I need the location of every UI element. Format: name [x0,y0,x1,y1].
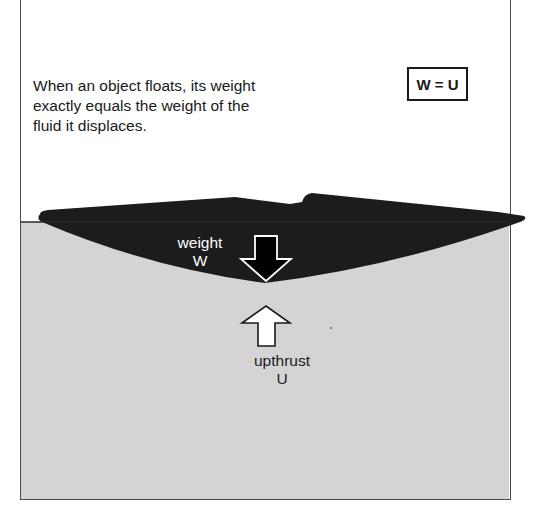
floating-object [38,193,525,283]
weight-label-text: weight [172,234,228,252]
equation-box: W = U [407,67,468,101]
arrow-up-icon [242,306,290,346]
caption-text: When an object floats, its weight exactl… [33,76,313,136]
upthrust-label-text: upthrust [240,352,324,370]
weight-symbol: W [172,252,228,270]
caption-line: fluid it displaces. [33,116,313,136]
caption-line: exactly equals the weight of the [33,96,313,116]
weight-label: weight W [172,234,228,270]
caption-line: When an object floats, its weight [33,76,313,96]
equation-text: W = U [416,76,458,93]
upthrust-label: upthrust U [240,352,324,388]
speck [330,327,332,329]
upthrust-symbol: U [240,370,324,388]
